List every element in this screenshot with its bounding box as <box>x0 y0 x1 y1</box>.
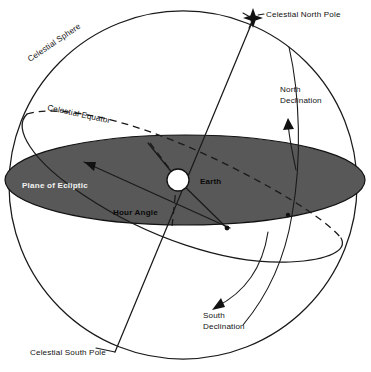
celestial-sphere-diagram: Celestial North Pole Celestial South Pol… <box>0 0 371 372</box>
declination-equator-node-dot <box>286 213 290 217</box>
celestial-equator-label: Celestial Equator <box>47 103 112 125</box>
diagram-canvas: Celestial North Pole Celestial South Pol… <box>0 0 371 372</box>
celestial-sphere-label: Celestial Sphere <box>26 21 83 63</box>
star-marker <box>243 8 263 28</box>
south-declination-label-line1: South <box>203 311 225 320</box>
plane-of-ecliptic-label: Plane of Ecliptic <box>22 181 88 190</box>
north-declination-label-line1: North <box>280 85 301 94</box>
earth-label: Earth <box>200 177 221 186</box>
south-declination-label-line2: Declination <box>203 322 245 331</box>
celestial-north-pole-leader <box>258 14 264 15</box>
north-declination-arrowhead <box>283 118 294 130</box>
earth-circle <box>167 169 189 191</box>
celestial-south-pole-label: Celestial South Pole <box>30 348 106 357</box>
south-declination-arrow-shaft <box>216 232 268 307</box>
south-declination-arrowhead <box>212 298 225 310</box>
hour-angle-label: Hour Angle <box>113 208 158 217</box>
equator-ecliptic-node-dot <box>225 226 230 231</box>
north-declination-label-line2: Declination <box>280 96 322 105</box>
celestial-north-pole-label: Celestial North Pole <box>266 10 341 19</box>
